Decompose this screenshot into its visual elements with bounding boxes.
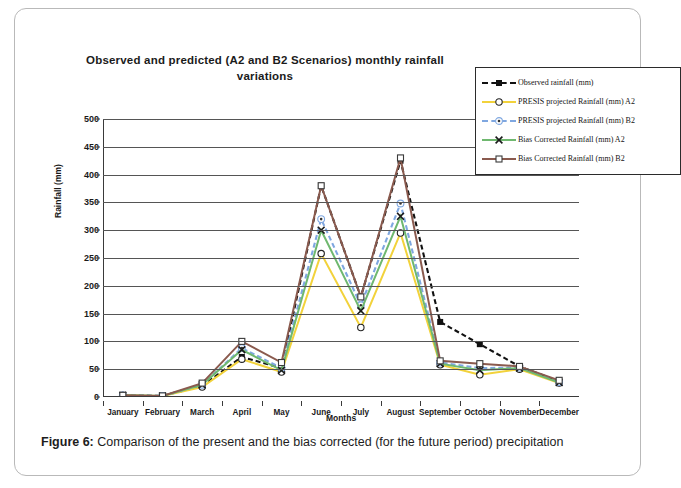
gridline: [103, 341, 579, 342]
gridline: [103, 202, 579, 203]
data-point-x-cross: [496, 136, 503, 143]
gridline: [103, 314, 579, 315]
gridline: [103, 369, 579, 370]
y-axis-tick-mark: [95, 174, 100, 175]
y-axis-tick-mark: [95, 230, 100, 231]
x-axis-tick-mark: [103, 401, 104, 406]
legend-item[interactable]: Observed rainfall (mm): [482, 73, 674, 92]
gridline: [103, 286, 579, 287]
legend-marker-icon: [492, 152, 506, 166]
legend-label: Bias Corrected Rainfall (mm) B2: [516, 154, 625, 163]
data-point-open-square: [496, 156, 502, 162]
y-axis-tick-mark: [95, 369, 100, 370]
legend-swatch: [482, 114, 516, 128]
x-axis-tick-mark: [420, 401, 421, 406]
legend-swatch: [482, 95, 516, 109]
x-axis-tick-mark: [262, 401, 263, 406]
legend-marker-icon: [492, 76, 506, 90]
y-axis-tick-mark: [95, 341, 100, 342]
legend-label: Observed rainfall (mm): [516, 78, 594, 87]
data-point-circled-dot: [496, 117, 503, 124]
x-axis-tick-mark: [539, 401, 540, 406]
x-axis-tick-mark: [222, 401, 223, 406]
chart-legend: Observed rainfall (mm)PRESIS projected R…: [475, 67, 681, 175]
figure-caption-text: Comparison of the present and the bias c…: [94, 435, 564, 449]
legend-item[interactable]: PRESIS projected Rainfall (mm) A2: [482, 92, 674, 111]
x-axis-title: Months: [103, 413, 579, 423]
x-axis-tick-mark: [500, 401, 501, 406]
legend-label: PRESIS projected Rainfall (mm) B2: [516, 116, 635, 125]
figure-caption-label: Figure 6:: [41, 435, 94, 449]
chart-title: Observed and predicted (A2 and B2 Scenar…: [85, 53, 445, 84]
legend-marker-icon: [492, 95, 506, 109]
legend-swatch: [482, 76, 516, 90]
gridline: [103, 258, 579, 259]
legend-item[interactable]: Bias Corrected Rainfall (mm) B2: [482, 149, 674, 168]
legend-swatch: [482, 152, 516, 166]
chart-figure: Observed and predicted (A2 and B2 Scenar…: [37, 23, 649, 423]
x-axis-tick-mark: [381, 401, 382, 406]
x-axis-tick-mark: [301, 401, 302, 406]
y-axis-tick-mark: [95, 146, 100, 147]
legend-label: PRESIS projected Rainfall (mm) A2: [516, 97, 635, 106]
x-axis-tick-mark: [182, 401, 183, 406]
legend-swatch: [482, 133, 516, 147]
legend-marker-icon: [492, 133, 506, 147]
y-axis-tick-labels: 050100150200250300350400450500: [51, 113, 99, 403]
y-axis-tick-mark: [95, 313, 100, 314]
figure-card: Observed and predicted (A2 and B2 Scenar…: [14, 8, 641, 476]
legend-item[interactable]: Bias Corrected Rainfall (mm) A2: [482, 130, 674, 149]
y-axis-tick-mark: [95, 285, 100, 286]
gridline: [103, 230, 579, 231]
x-axis-tick-mark: [143, 401, 144, 406]
x-axis-tick-mark: [460, 401, 461, 406]
legend-label: Bias Corrected Rainfall (mm) A2: [516, 135, 625, 144]
legend-marker-icon: [492, 114, 506, 128]
y-axis-tick-mark: [95, 258, 100, 259]
y-axis-tick-mark: [95, 202, 100, 203]
y-axis-tick-mark: [95, 119, 100, 120]
data-point-filled-square: [496, 80, 502, 86]
legend-item[interactable]: PRESIS projected Rainfall (mm) B2: [482, 111, 674, 130]
x-axis-tick-mark: [341, 401, 342, 406]
figure-caption: Figure 6: Comparison of the present and …: [41, 433, 649, 451]
y-axis-tick-mark: [95, 397, 100, 398]
data-point-open-circle: [496, 98, 502, 104]
